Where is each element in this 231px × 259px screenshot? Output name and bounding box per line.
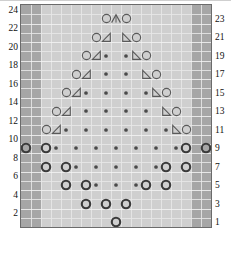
- chart-symbol-yarn-over-open-circle: [131, 32, 142, 43]
- row-number-label: 23: [215, 13, 225, 25]
- chart-symbol-yarn-over-open-circle: [181, 124, 192, 135]
- chart-symbol-purl-dot: [113, 164, 119, 170]
- chart-symbol-purl-dot: [163, 127, 169, 133]
- chart-symbol-yarn-over-bold-circle: [40, 142, 52, 154]
- chart-symbol-yarn-over-open-circle: [121, 13, 132, 24]
- chart-symbol-purl-dot: [93, 164, 99, 170]
- chart-symbol-purl-dot: [93, 145, 99, 151]
- row-number-label: 12: [9, 115, 19, 127]
- chart-symbol-yarn-over-bold-circle: [180, 142, 192, 154]
- chart-symbol-yarn-over-bold-circle: [60, 179, 72, 191]
- chart-symbol-purl-dot: [173, 145, 179, 151]
- row-number-label: 9: [215, 142, 220, 154]
- row-number-label: 10: [9, 133, 19, 145]
- row-numbers-right: 2321191715131197531: [211, 4, 231, 228]
- chart-symbol-purl-dot: [83, 127, 89, 133]
- chart-symbol-purl-dot: [153, 164, 159, 170]
- row-number-label: 18: [9, 59, 19, 71]
- chart-symbol-purl-dot: [123, 108, 129, 114]
- chart-symbol-purl-dot: [143, 108, 149, 114]
- chart-symbol-right-leaning-decrease-triangle: [101, 32, 112, 43]
- chart-symbol-yarn-over-open-circle: [151, 69, 162, 80]
- row-number-label: 15: [215, 87, 225, 99]
- row-number-label: 14: [9, 96, 19, 108]
- row-number-label: 8: [13, 152, 18, 164]
- chart-symbol-right-leaning-decrease-triangle: [91, 50, 102, 61]
- chart-symbol-yarn-over-bold-circle: [100, 198, 112, 210]
- chart-symbol-yarn-over-bold-circle: [140, 179, 152, 191]
- chart-symbol-purl-dot: [103, 108, 109, 114]
- chart-grid: [20, 4, 212, 228]
- chart-symbol-yarn-over-open-circle: [141, 50, 152, 61]
- chart-symbol-purl-dot: [153, 145, 159, 151]
- chart-symbol-yarn-over-bold-circle: [180, 161, 192, 173]
- row-number-label: 24: [9, 4, 19, 16]
- chart-symbol-purl-dot: [53, 145, 59, 151]
- top-edge-rule: [0, 0, 231, 1]
- row-number-label: 13: [215, 105, 225, 117]
- row-number-label: 20: [9, 41, 19, 53]
- chart-symbols: [21, 5, 211, 227]
- chart-symbol-purl-dot: [113, 182, 119, 188]
- chart-symbol-yarn-over-open-circle: [161, 87, 172, 98]
- chart-symbol-right-leaning-decrease-triangle: [51, 124, 62, 135]
- chart-symbol-purl-dot: [93, 182, 99, 188]
- chart-symbol-purl-dot: [133, 145, 139, 151]
- repeat-bracket: [0, 236, 231, 256]
- chart-symbol-purl-dot: [113, 145, 119, 151]
- chart-symbol-purl-dot: [73, 164, 79, 170]
- chart-symbol-purl-dot: [123, 90, 129, 96]
- chart-symbol-yarn-over-bold-circle: [40, 161, 52, 173]
- row-number-label: 17: [215, 68, 225, 80]
- chart-symbol-right-leaning-decrease-triangle: [61, 106, 72, 117]
- row-number-label: 6: [13, 170, 18, 182]
- row-number-label: 7: [215, 161, 220, 173]
- chart-symbol-purl-dot: [103, 127, 109, 133]
- row-numbers-left: 24222018161412108642: [0, 4, 20, 228]
- row-number-label: 11: [215, 124, 224, 136]
- row-number-label: 3: [215, 198, 220, 210]
- row-number-label: 19: [215, 50, 225, 62]
- chart-symbol-yarn-over-open-circle: [171, 106, 182, 117]
- chart-symbol-purl-dot: [123, 127, 129, 133]
- chart-symbol-purl-dot: [103, 71, 109, 77]
- chart-symbol-yarn-over-bold-circle: [160, 161, 172, 173]
- chart-symbol-yarn-over-bold-circle: [80, 198, 92, 210]
- chart-symbol-yarn-over-bold-circle: [80, 179, 92, 191]
- row-number-label: 22: [9, 22, 19, 34]
- chart-symbol-purl-dot: [63, 127, 69, 133]
- chart-symbol-purl-dot: [143, 127, 149, 133]
- chart-symbol-yarn-over-bold-circle: [60, 161, 72, 173]
- chart-symbol-yarn-over-bold-circle: [120, 198, 132, 210]
- row-number-label: 2: [13, 207, 18, 219]
- row-number-label: 16: [9, 78, 19, 90]
- chart-symbol-yarn-over-bold-circle: [20, 142, 32, 154]
- row-number-label: 1: [215, 216, 220, 228]
- chart-symbol-right-leaning-decrease-triangle: [81, 69, 92, 80]
- chart-symbol-purl-dot: [103, 90, 109, 96]
- chart-symbol-purl-dot: [133, 164, 139, 170]
- chart-symbol-yarn-over-bold-circle: [160, 179, 172, 191]
- chart-symbol-purl-dot: [143, 90, 149, 96]
- row-number-label: 21: [215, 31, 225, 43]
- row-number-label: 4: [13, 189, 18, 201]
- chart-symbol-purl-dot: [123, 53, 129, 59]
- chart-symbol-purl-dot: [123, 71, 129, 77]
- chart-symbol-purl-dot: [73, 145, 79, 151]
- row-number-label: 5: [215, 179, 220, 191]
- chart-symbol-purl-dot: [133, 182, 139, 188]
- chart-symbol-purl-dot: [83, 90, 89, 96]
- chart-symbol-purl-dot: [103, 53, 109, 59]
- chart-symbol-purl-dot: [83, 108, 89, 114]
- chart-symbol-right-leaning-decrease-triangle: [71, 87, 82, 98]
- chart-symbol-yarn-over-bold-circle: [110, 216, 122, 228]
- lace-chart-figure: 24222018161412108642: [0, 0, 231, 259]
